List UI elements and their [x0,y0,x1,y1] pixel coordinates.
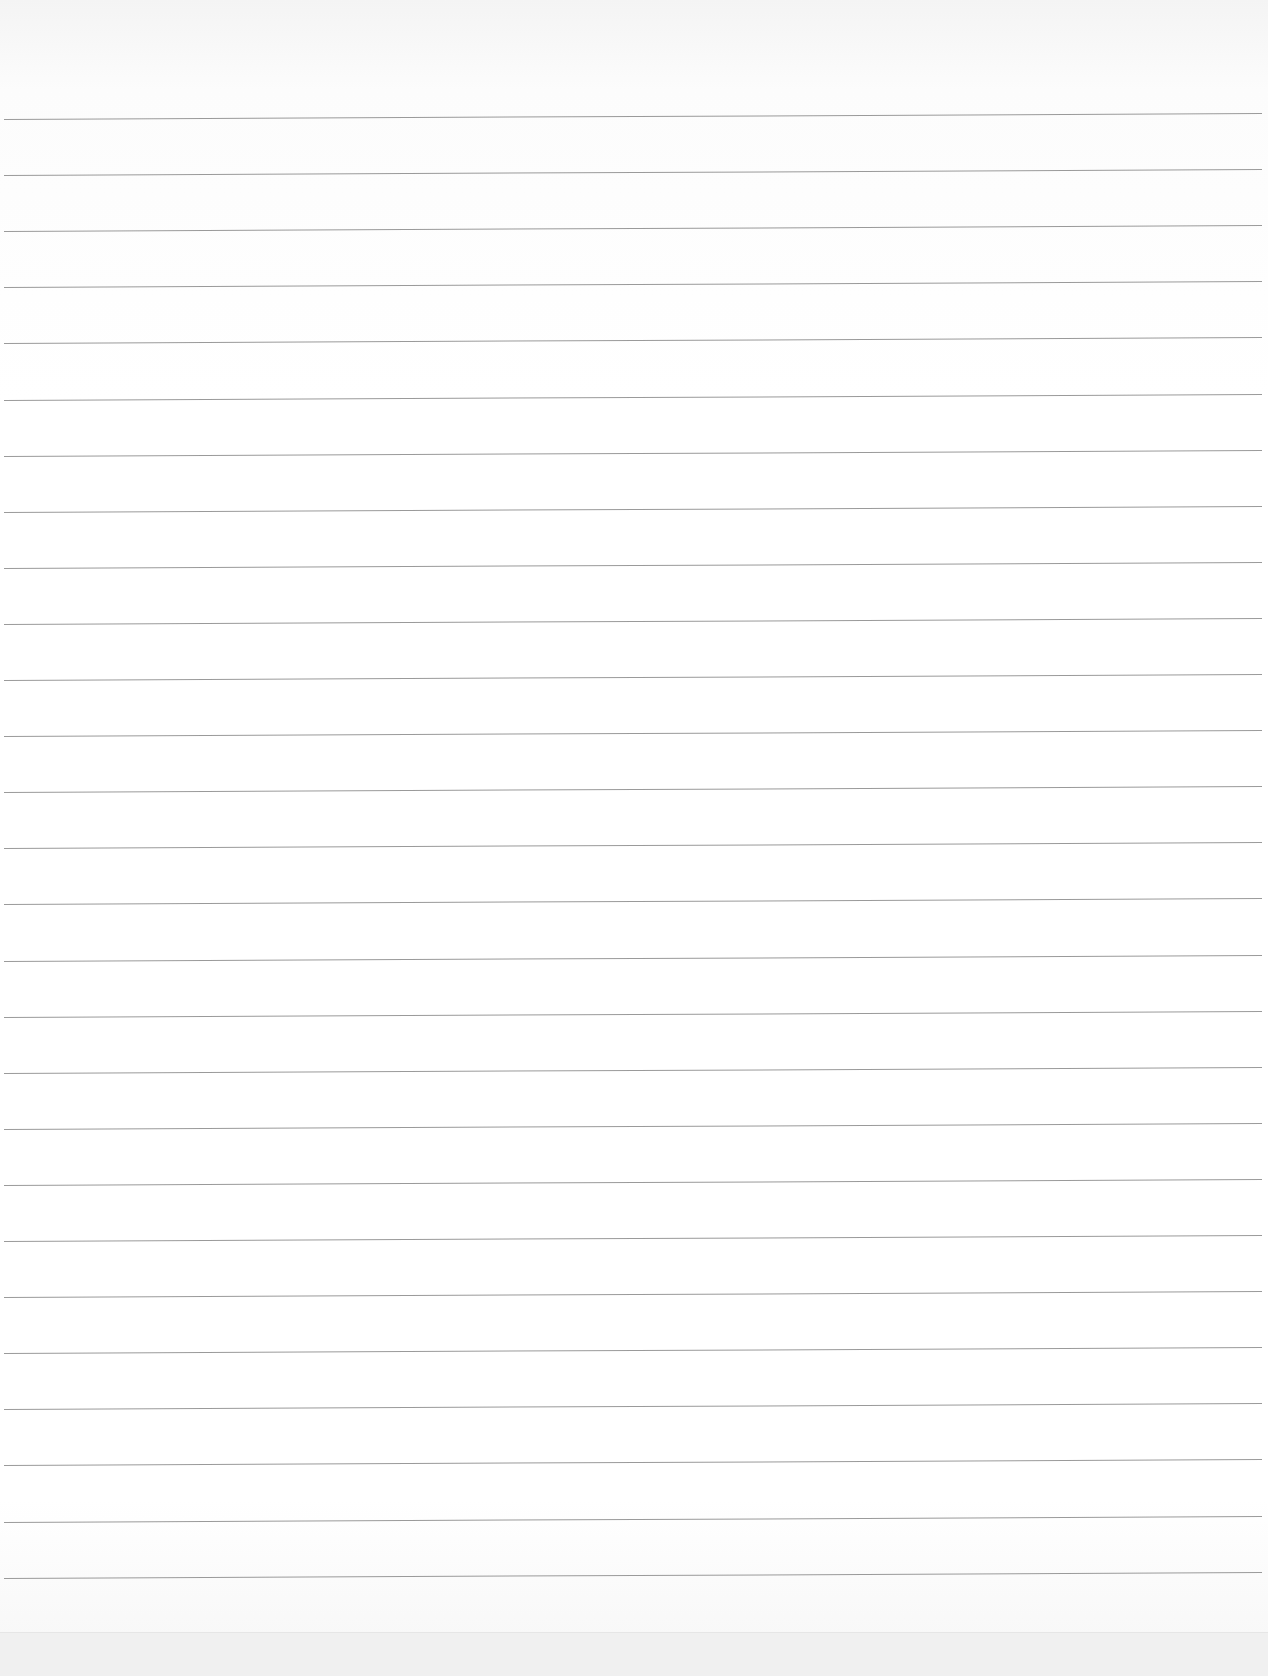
ruled-line [4,506,1262,513]
ruled-line [4,225,1262,232]
ruled-line [4,1179,1262,1186]
ruled-line [4,562,1262,569]
ruled-line [4,1235,1262,1242]
ruled-line [4,1067,1262,1074]
ruled-line [4,898,1262,905]
ruled-line [4,337,1262,344]
ruled-line [4,674,1262,681]
ruled-line [4,1347,1262,1354]
ruled-line [4,955,1262,962]
ruled-line [4,394,1262,401]
ruled-line [4,618,1262,625]
ruled-line [4,1516,1262,1523]
ruled-line [4,1459,1262,1466]
ruled-line [4,786,1262,793]
ruled-line [4,1291,1262,1298]
ruled-line [4,730,1262,737]
ruled-line [4,113,1262,120]
ruled-line [4,842,1262,849]
paper-bottom-margin [0,1632,1268,1676]
ruled-line [4,169,1262,176]
ruled-line [4,1011,1262,1018]
ruled-line [4,1123,1262,1130]
ruled-line [4,1572,1262,1579]
ruled-line [4,1403,1262,1410]
ruled-line [4,450,1262,457]
ruled-line [4,281,1262,288]
